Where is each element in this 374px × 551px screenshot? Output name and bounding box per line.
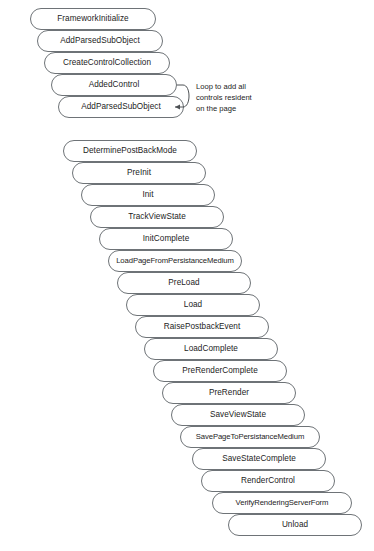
stage-box-save-page-to-persistance-medium: SavePageToPersistanceMedium [180,426,320,448]
stage-box-pre-render-complete: PreRenderComplete [153,360,287,382]
stage-box-render-control: RenderControl [201,470,335,492]
stage-label: Unload [279,521,311,529]
stage-box-save-view-state: SaveViewState [171,404,305,426]
stage-box-framework-initialize: FrameworkInitialize [30,8,156,30]
stage-label: PreLoad [165,279,202,287]
stage-box-pre-render: PreRender [162,382,296,404]
stage-label: LoadPageFromPersistanceMedium [115,257,235,265]
stage-box-load-page-from-persistance-medium: LoadPageFromPersistanceMedium [108,250,242,272]
stage-box-pre-load: PreLoad [117,272,251,294]
stage-box-pre-init: PreInit [72,162,206,184]
loop-annotation-line-1: Loop to add all [196,82,296,93]
stage-label: InitComplete [140,235,193,243]
stage-label: FrameworkInitialize [54,15,131,23]
stage-label: SaveStateComplete [219,455,299,463]
stage-box-determine-post-back-mode: DeterminePostBackMode [63,140,197,162]
loop-annotation: Loop to add all controls resident on the… [196,82,296,114]
stage-box-verify-rendering-server-form: VerifyRenderingServerForm [212,492,352,514]
stage-box-init-complete: InitComplete [99,228,233,250]
stage-box-create-control-collection: CreateControlCollection [44,52,170,74]
stage-label: LoadComplete [181,345,241,353]
stage-label: Load [181,301,205,309]
stage-label: RenderControl [238,477,298,485]
stage-box-load-complete: LoadComplete [144,338,278,360]
stage-label: PreInit [124,169,154,177]
stage-box-load: Load [126,294,260,316]
stage-label: CreateControlCollection [60,59,154,67]
stage-label: AddParsedSubObject [57,37,143,45]
loop-annotation-line-2: controls resident [196,93,296,104]
stage-box-add-parsed-sub-object-1: AddParsedSubObject [37,30,163,52]
stage-label: Init [139,191,156,199]
loop-annotation-line-3: on the page [196,104,296,115]
stage-label: PreRenderComplete [179,367,261,375]
stage-box-raise-postback-event: RaisePostbackEvent [135,316,269,338]
stage-box-track-view-state: TrackViewState [90,206,224,228]
stage-label: SaveViewState [207,411,269,419]
stage-box-unload: Unload [228,514,362,536]
stage-box-init: Init [81,184,215,206]
stage-label: RaisePostbackEvent [161,323,243,331]
stage-label: AddedControl [86,81,143,89]
stage-label: VerifyRenderingServerForm [235,499,330,507]
stage-label: PreRender [206,389,252,397]
page-lifecycle-diagram: FrameworkInitialize AddParsedSubObject C… [0,0,374,551]
stage-label: DeterminePostBackMode [80,147,180,155]
stage-label: SavePageToPersistanceMedium [195,433,305,441]
loop-arrow-icon [150,78,198,124]
stage-label: TrackViewState [125,213,189,221]
stage-box-save-state-complete: SaveStateComplete [192,448,326,470]
